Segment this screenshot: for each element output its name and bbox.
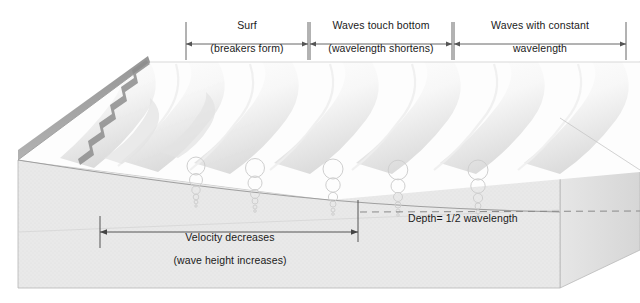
- zone-label-touch-bottom: Waves touch bottom (wavelength shortens): [310, 8, 452, 54]
- velocity-annotation-line2: (wave height increases): [173, 254, 286, 266]
- zone-label-constant-wavelength: Waves with constant wavelength: [454, 8, 626, 54]
- zone-label-constant-wavelength-line1: Waves with constant: [491, 19, 589, 31]
- depth-annotation-label: Depth= 1/2 wavelength: [408, 213, 588, 225]
- zone-label-surf-line1: Surf: [237, 19, 257, 31]
- zone-label-touch-bottom-line1: Waves touch bottom: [332, 19, 429, 31]
- zone-label-touch-bottom-line2: (wavelength shortens): [328, 42, 433, 54]
- velocity-annotation-label: Velocity decreases (wave height increase…: [150, 220, 310, 266]
- zone-label-constant-wavelength-line2: wavelength: [513, 42, 567, 54]
- zone-label-surf: Surf (breakers form): [186, 8, 308, 54]
- zone-label-surf-line2: (breakers form): [210, 42, 283, 54]
- diagram-canvas: Surf (breakers form) Waves touch bottom …: [0, 0, 640, 303]
- velocity-annotation-line1: Velocity decreases: [185, 231, 274, 243]
